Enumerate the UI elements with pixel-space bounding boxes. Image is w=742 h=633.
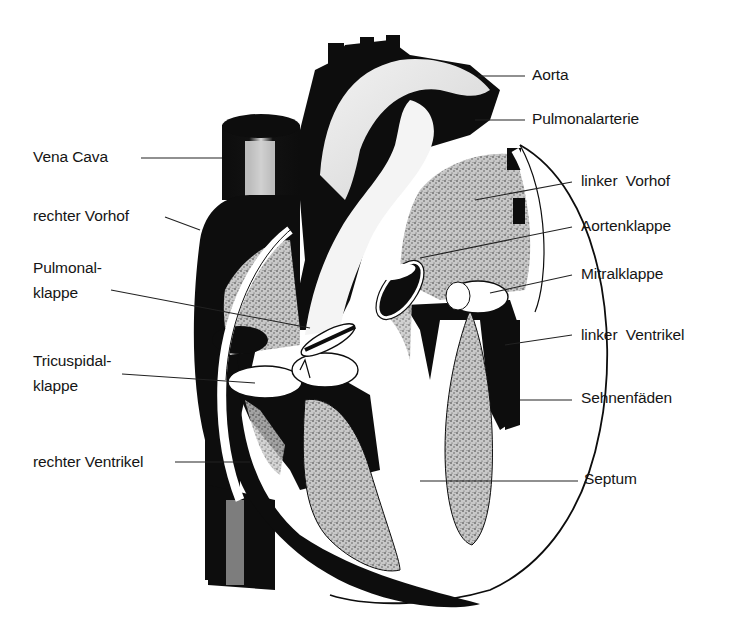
vena-cava-shape: [222, 114, 300, 201]
label-tricuspidalklappe-line1: Tricuspidal-: [33, 352, 111, 370]
label-rechter-vorhof: rechter Vorhof: [33, 207, 129, 225]
label-septum: Septum: [584, 470, 637, 488]
label-aortenklappe: Aortenklappe: [581, 217, 671, 235]
heart-illustration: [0, 0, 742, 633]
heart-diagram: Vena Cava rechter Vorhof Pulmonal- klapp…: [0, 0, 742, 633]
label-rechter-ventrikel: rechter Ventrikel: [33, 453, 143, 471]
label-linker-ventrikel: linker Ventrikel: [581, 326, 684, 344]
label-tricuspidalklappe-line2: klappe: [33, 377, 78, 395]
label-aorta: Aorta: [532, 66, 569, 84]
label-vena-cava: Vena Cava: [33, 148, 108, 166]
label-pulmonalklappe-line2: klappe: [33, 284, 78, 302]
label-pulmonalarterie: Pulmonalarterie: [532, 110, 639, 128]
label-sehnenfaeden: Sehnenfäden: [581, 389, 672, 407]
label-pulmonalklappe-line1: Pulmonal-: [33, 259, 102, 277]
mitral-valve-shape: [446, 281, 508, 313]
label-linker-vorhof: linker Vorhof: [581, 172, 670, 190]
label-mitralklappe: Mitralklappe: [581, 265, 663, 283]
